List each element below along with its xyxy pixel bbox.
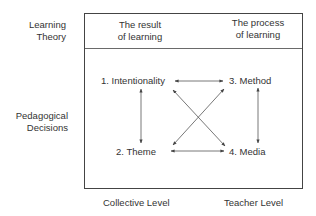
- edge-intentionality-media: [173, 90, 225, 146]
- row-label-pedagogical-decisions: Pedagogical Decisions: [2, 110, 68, 133]
- row-label-line: Theory: [10, 31, 66, 43]
- footer-teacher-level: Teacher Level: [224, 197, 283, 209]
- node-intentionality: 1. Intentionality: [101, 75, 165, 87]
- row-label-learning-theory: Learning Theory: [10, 19, 66, 42]
- footer-collective-level: Collective Level: [103, 197, 170, 209]
- row-label-line: Decisions: [2, 122, 68, 134]
- row-label-line: Learning: [10, 19, 66, 31]
- header-line: of learning: [218, 29, 298, 41]
- header-line: The process: [218, 17, 298, 29]
- header-line: of learning: [100, 31, 180, 43]
- row-label-line: Pedagogical: [2, 110, 68, 122]
- node-theme: 2. Theme: [116, 146, 156, 158]
- header-line: The result: [100, 19, 180, 31]
- column-header-result: The result of learning: [100, 19, 180, 42]
- node-media: 4. Media: [229, 146, 265, 158]
- column-header-process: The process of learning: [218, 17, 298, 40]
- node-method: 3. Method: [229, 75, 271, 87]
